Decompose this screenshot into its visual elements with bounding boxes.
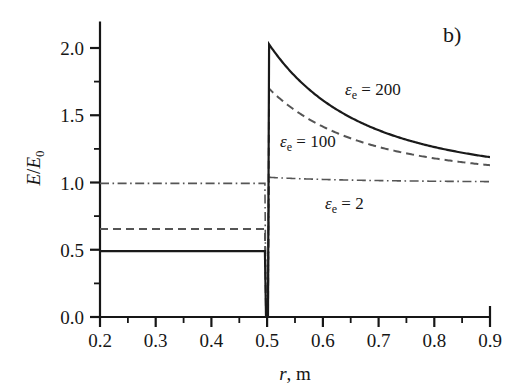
- figure-panel-b: 0.0 0.5 1.0 1.5 2.0 0.2 0.3 0.4 0.5 0.6 …: [0, 0, 519, 387]
- eps-eq-2: =: [337, 194, 355, 213]
- y-tick-label-4: 2.0: [60, 38, 84, 59]
- x-tick-label-2: 0.4: [200, 330, 224, 351]
- y-tick-label-3: 1.5: [60, 105, 84, 126]
- svg-text:εe = 200: εe = 200: [345, 80, 401, 102]
- curve-eps-e-100: [100, 89, 490, 317]
- x-axis-title-unit: m: [296, 363, 311, 384]
- y-axis-major-ticks: [90, 48, 100, 317]
- y-axis-tick-labels: 0.0 0.5 1.0 1.5 2.0: [60, 38, 84, 328]
- eps-value-100: 100: [310, 132, 336, 151]
- y-tick-label-2: 1.0: [60, 173, 84, 194]
- x-tick-label-7: 0.9: [478, 330, 502, 351]
- y-axis-title-num: E: [23, 174, 44, 187]
- svg-text:εe = 2: εe = 2: [325, 194, 364, 216]
- svg-text:r, m: r, m: [279, 363, 311, 384]
- panel-label-b: b): [443, 22, 461, 47]
- plot-canvas: 0.0 0.5 1.0 1.5 2.0 0.2 0.3 0.4 0.5 0.6 …: [0, 0, 519, 387]
- eps-value-2: 2: [355, 194, 364, 213]
- curve-eps-e-2: [100, 177, 490, 317]
- curve-label-eps-200: εe = 200: [345, 80, 401, 102]
- curve-label-eps-2: εe = 2: [325, 194, 364, 216]
- svg-text:E/E0: E/E0: [23, 151, 47, 187]
- y-axis-title-den: E: [23, 157, 44, 170]
- eps-eq-100: =: [292, 132, 310, 151]
- y-axis-title: E/E0: [23, 151, 47, 187]
- eps-eq-200: =: [357, 80, 375, 99]
- x-tick-label-4: 0.6: [311, 330, 335, 351]
- x-tick-label-3: 0.5: [255, 330, 279, 351]
- x-axis-title: r, m: [279, 363, 311, 384]
- curves-group: [100, 44, 490, 317]
- x-axis-tick-labels: 0.2 0.3 0.4 0.5 0.6 0.7 0.8 0.9: [88, 330, 502, 351]
- x-tick-label-0: 0.2: [88, 330, 112, 351]
- y-tick-label-0: 0.0: [60, 307, 84, 328]
- svg-text:εe = 100: εe = 100: [280, 132, 336, 154]
- x-axis-title-sep: ,: [287, 363, 297, 384]
- x-tick-label-5: 0.7: [367, 330, 391, 351]
- y-axis-title-den-sub: 0: [32, 151, 47, 158]
- y-tick-label-1: 0.5: [60, 240, 84, 261]
- x-tick-label-6: 0.8: [422, 330, 446, 351]
- x-tick-label-1: 0.3: [144, 330, 168, 351]
- axis-lines: [100, 22, 490, 318]
- curve-label-eps-100: εe = 100: [280, 132, 336, 154]
- eps-value-200: 200: [375, 80, 401, 99]
